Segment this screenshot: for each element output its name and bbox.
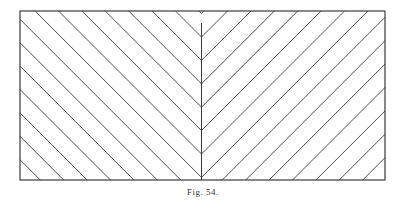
hatch-line [222,17,385,180]
hatch-line [176,11,202,37]
hatch-line [293,88,386,181]
hatch-line [82,11,202,131]
hatch-line [269,64,385,180]
hatch-line [59,11,202,154]
hatch-line [20,43,157,180]
hatch-lines [20,11,385,180]
hatch-line [20,136,64,180]
hatch-line [202,11,345,154]
hatch-line [202,11,251,60]
hatch-line [105,11,201,107]
hatch-line [363,158,385,180]
hatch-line [152,11,201,60]
figure-caption: Fig. 54. [0,187,406,197]
herringbone-figure [0,0,406,210]
hatch-line [246,41,385,180]
hatch-line [129,11,202,84]
hatch-line [20,160,40,180]
hatch-line [20,66,134,180]
hatch-line [202,11,322,131]
hatch-line [316,111,385,180]
hatch-line [202,11,298,107]
hatch-line [20,90,111,181]
hatch-line [202,11,228,37]
hatch-line [20,19,181,180]
hatch-line [202,11,275,84]
hatch-line [339,134,385,180]
